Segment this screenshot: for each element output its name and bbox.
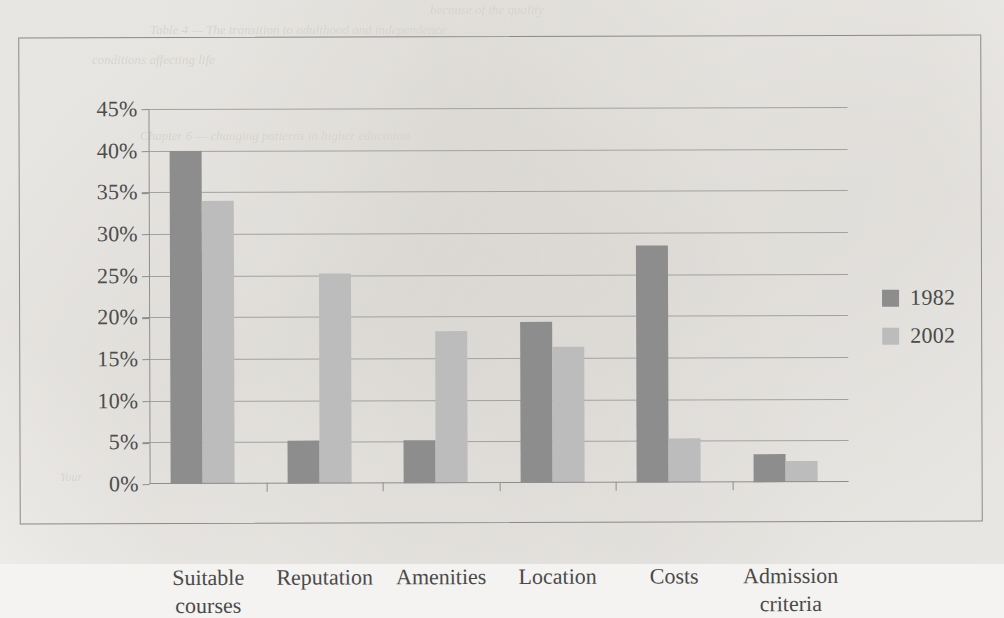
x-axis-category-divider — [383, 482, 384, 491]
x-axis-label-admission-criteria: Admission criteria — [726, 562, 856, 618]
x-axis-category-divider — [732, 481, 733, 490]
y-axis-tick-label: 40% — [97, 138, 138, 164]
bar-group — [381, 108, 499, 483]
bar-1982-location — [520, 322, 553, 483]
x-axis-category-divider — [266, 483, 267, 492]
bar-2002-amenities — [435, 331, 467, 484]
chart-legend: 19822002 — [882, 279, 955, 355]
y-axis-tick — [142, 192, 149, 193]
x-axis-label-location: Location — [493, 563, 623, 592]
bar-2002-costs — [668, 438, 700, 482]
bar-1982-costs — [636, 245, 669, 483]
chart-frame: 45%40%35%30%25%20%15%10%5%0% Suitable co… — [18, 34, 983, 524]
bar-group — [614, 107, 732, 482]
bar-2002-reputation — [318, 273, 351, 483]
y-axis-tick-label: 10% — [97, 388, 138, 414]
bar-group — [498, 108, 616, 483]
x-axis-label-suitable-courses: Suitable courses — [143, 564, 273, 618]
legend-label: 2002 — [910, 323, 955, 349]
y-axis-tick — [143, 484, 150, 485]
bar-2002-admission-criteria — [785, 461, 817, 482]
x-axis-category-divider — [616, 482, 617, 491]
x-axis-label-reputation: Reputation — [260, 563, 390, 592]
y-axis-tick-label: 45% — [96, 96, 137, 122]
legend-item-1982: 1982 — [882, 279, 955, 317]
bar-group — [731, 107, 849, 482]
y-axis-tick — [142, 359, 149, 360]
y-axis-tick-label: 30% — [97, 221, 138, 247]
legend-swatch-icon — [882, 327, 899, 344]
bar-group — [265, 108, 383, 483]
x-axis-label-costs: Costs — [609, 562, 739, 591]
bar-1982-admission-criteria — [753, 454, 785, 482]
legend-swatch-icon — [882, 289, 899, 306]
y-axis-tick — [142, 276, 149, 277]
y-axis-tick — [142, 151, 149, 152]
plot-area: 45%40%35%30%25%20%15%10%5%0% Suitable co… — [148, 107, 848, 484]
x-axis-category-divider — [499, 482, 500, 491]
y-axis-tick — [141, 109, 148, 110]
y-axis-tick — [142, 317, 149, 318]
y-axis-tick — [143, 442, 150, 443]
legend-label: 1982 — [910, 285, 955, 311]
bleed-through-text-line: because of the quality — [430, 2, 544, 18]
bar-group — [148, 109, 266, 484]
bar-2002-suitable-courses — [202, 201, 235, 484]
legend-item-2002: 2002 — [882, 317, 955, 355]
y-axis-tick-label: 25% — [97, 263, 138, 289]
bar-1982-reputation — [287, 440, 319, 483]
y-axis-tick-label: 35% — [97, 179, 138, 205]
bars — [148, 107, 848, 484]
y-axis-tick-label: 15% — [97, 346, 138, 372]
y-axis-tick-label: 20% — [97, 304, 138, 330]
x-axis-label-amenities: Amenities — [376, 563, 506, 592]
y-axis-tick — [142, 401, 149, 402]
bar-2002-location — [552, 347, 584, 483]
y-axis-tick — [142, 234, 149, 235]
y-axis-tick-label: 0% — [109, 471, 139, 497]
bar-1982-amenities — [404, 440, 436, 483]
y-axis-tick-label: 5% — [109, 429, 139, 455]
bar-1982-suitable-courses — [170, 151, 203, 484]
